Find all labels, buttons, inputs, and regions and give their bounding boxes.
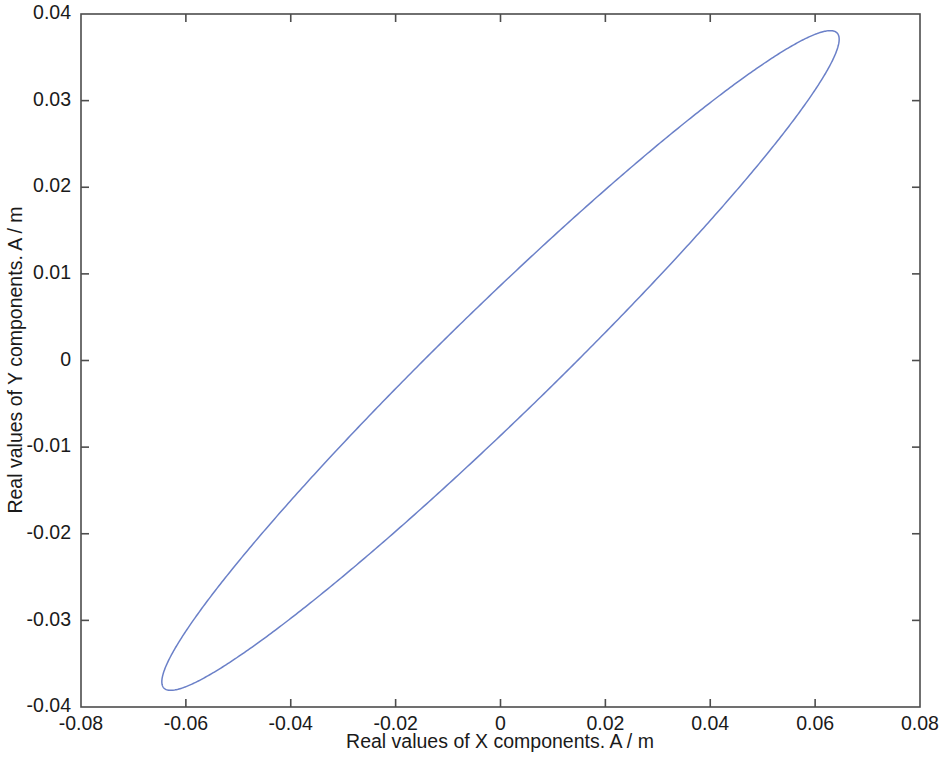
- x-axis-title: Real values of X components. A / m: [346, 730, 654, 752]
- y-tick-label: 0.03: [33, 88, 71, 110]
- y-tick-label: 0: [60, 348, 71, 370]
- chart-figure: -0.08-0.06-0.04-0.0200.020.040.060.08 -0…: [0, 0, 945, 760]
- y-tick-label: -0.04: [27, 694, 72, 716]
- y-tick-label: 0.01: [33, 261, 71, 283]
- y-tick-label: -0.01: [27, 434, 71, 456]
- y-tick-label: -0.03: [27, 608, 71, 630]
- y-tick-label: -0.02: [27, 521, 71, 543]
- x-tick-label: -0.06: [164, 712, 208, 734]
- y-axis-title: Real values of Y components. A / m: [4, 206, 26, 513]
- chart-canvas: -0.08-0.06-0.04-0.0200.020.040.060.08 -0…: [0, 0, 945, 760]
- x-tick-label: 0.08: [901, 712, 939, 734]
- x-tick-label: 0.04: [691, 712, 729, 734]
- y-tick-label: 0.04: [33, 1, 71, 23]
- x-tick-label: -0.04: [269, 712, 314, 734]
- y-tick-label: 0.02: [33, 174, 71, 196]
- x-tick-label: 0.06: [796, 712, 834, 734]
- figure-background: [0, 0, 945, 760]
